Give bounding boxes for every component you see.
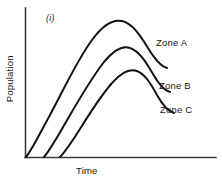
x-axis-label: Time (76, 166, 98, 176)
figure-container: (i) Population Time Zone A Zone B Zone C (0, 0, 222, 179)
series-label-zone-b: Zone B (159, 81, 191, 91)
series-label-zone-c: Zone C (160, 105, 192, 115)
y-axis-label: Population (5, 48, 15, 110)
curve-zone-c (60, 70, 174, 157)
curve-zone-b (44, 47, 170, 157)
curve-zone-a (26, 21, 167, 157)
series-label-zone-a: Zone A (156, 38, 187, 48)
panel-tag: (i) (46, 14, 55, 23)
